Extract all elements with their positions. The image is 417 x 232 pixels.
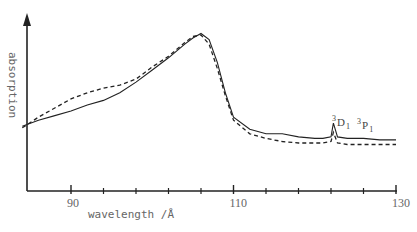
x-tick-label: 90 bbox=[67, 196, 79, 210]
y-axis-label: absorption bbox=[6, 52, 19, 118]
dashed-curve bbox=[22, 35, 396, 145]
y-axis-arrow-icon bbox=[23, 13, 31, 26]
x-axis-label: wavelength /Å bbox=[88, 208, 174, 221]
absorption-chart: 90110130 absorption wavelength /Å 3D13P1 bbox=[0, 0, 417, 232]
peak-label-3P1: 3P1 bbox=[357, 117, 373, 134]
peak-annotations: 3D13P1 bbox=[332, 114, 373, 134]
x-tick-label: 130 bbox=[392, 196, 410, 210]
x-axis-ticks bbox=[71, 185, 396, 194]
x-tick-label: 110 bbox=[230, 196, 248, 210]
